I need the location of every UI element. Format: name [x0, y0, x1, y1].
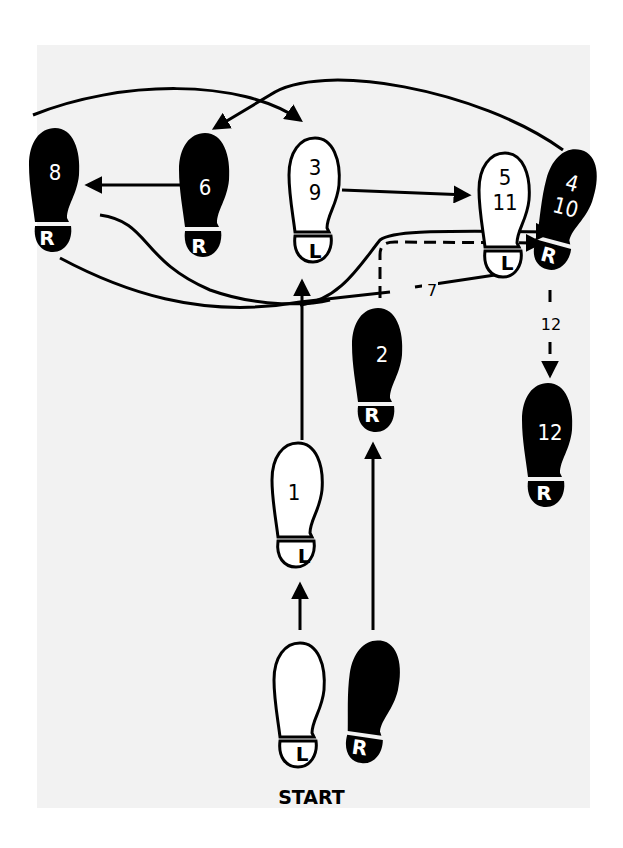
svg-text:L: L [296, 742, 309, 766]
svg-text:5: 5 [499, 165, 512, 190]
path-label-7: 7 [427, 281, 437, 300]
footprint-step-2: 2 R [352, 308, 402, 432]
svg-text:6: 6 [199, 175, 212, 200]
footprint-start-left: L [274, 643, 324, 767]
svg-text:L: L [309, 239, 322, 263]
svg-text:11: 11 [492, 190, 517, 215]
footprint-step-8: 8 R [29, 128, 79, 252]
footprint-step-6: 6 R [179, 133, 229, 258]
svg-text:9: 9 [309, 180, 322, 205]
footprint-step-3-9: 3 9 L [289, 138, 339, 263]
svg-text:R: R [536, 481, 551, 505]
footprint-step-5-11: 5 11 L [479, 153, 529, 277]
svg-text:8: 8 [49, 160, 62, 185]
step-diagram: 8 R 6 R 3 9 L 5 11 L 4 10 R 2 R 12 R [0, 0, 623, 848]
svg-text:R: R [39, 226, 54, 250]
svg-text:L: L [298, 544, 311, 568]
footprint-start-right: R [338, 637, 405, 767]
svg-text:R: R [364, 403, 379, 427]
footprint-step-1: 1 L [272, 443, 322, 568]
svg-text:2: 2 [376, 342, 389, 367]
svg-text:3: 3 [309, 155, 322, 180]
footprint-step-4-10: 4 10 R [524, 143, 605, 276]
start-label: START [0, 786, 623, 808]
footprint-step-12: 12 R [522, 383, 572, 507]
path-label-12: 12 [541, 315, 561, 334]
svg-text:12: 12 [537, 420, 562, 445]
svg-text:R: R [191, 234, 206, 258]
svg-text:1: 1 [288, 480, 301, 505]
svg-text:L: L [501, 251, 514, 275]
